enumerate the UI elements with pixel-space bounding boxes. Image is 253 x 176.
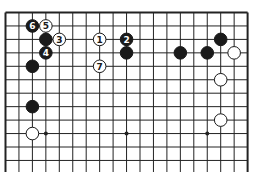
- black-stone: 4: [40, 47, 53, 60]
- black-stone: [120, 47, 133, 60]
- stone-body: [228, 47, 241, 60]
- move-number-label: 3: [56, 35, 62, 45]
- move-number-label: 5: [43, 21, 49, 31]
- go-board: 6534127: [0, 0, 253, 176]
- stone-body: [174, 47, 187, 60]
- black-stone: 6: [26, 20, 39, 33]
- star-point: [44, 132, 48, 136]
- black-stone: [26, 100, 39, 113]
- stone-body: [26, 127, 39, 140]
- black-stone: [40, 33, 53, 46]
- stone-body: [214, 33, 227, 46]
- black-stone: [201, 47, 214, 60]
- stone-body: [214, 73, 227, 86]
- stone-body: [201, 47, 214, 60]
- white-stone: 5: [40, 20, 53, 33]
- star-point: [205, 132, 209, 136]
- white-stone: 1: [93, 33, 106, 46]
- star-point: [125, 132, 129, 136]
- stone-body: [120, 47, 133, 60]
- stone-body: [26, 100, 39, 113]
- stone-body: [26, 60, 39, 73]
- black-stone: [214, 33, 227, 46]
- white-stone: [228, 47, 241, 60]
- black-stone: 2: [120, 33, 133, 46]
- stone-body: [214, 114, 227, 127]
- move-number-label: 1: [97, 35, 103, 45]
- stone-body: [40, 33, 53, 46]
- move-number-label: 6: [29, 21, 35, 31]
- white-stone: [214, 114, 227, 127]
- white-stone: [26, 127, 39, 140]
- white-stone: [214, 73, 227, 86]
- white-stone: 7: [93, 60, 106, 73]
- move-number-label: 7: [97, 62, 103, 72]
- move-number-label: 4: [43, 48, 49, 58]
- black-stone: [26, 60, 39, 73]
- white-stone: 3: [53, 33, 66, 46]
- move-number-label: 2: [123, 35, 129, 45]
- black-stone: [174, 47, 187, 60]
